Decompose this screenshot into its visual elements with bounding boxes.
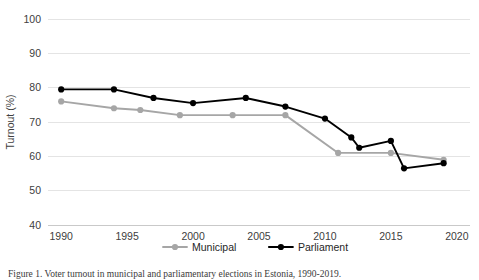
data-point [401,165,407,171]
data-point [356,145,362,151]
figure-caption: Figure 1. Voter turnout in municipal and… [8,268,476,280]
legend-marker [172,244,178,250]
data-point [190,100,196,106]
legend-marker [278,244,284,250]
y-tick-label: 90 [29,47,41,59]
data-point [58,98,64,104]
data-point [150,95,156,101]
x-tick-label: 1990 [50,230,74,242]
chart-legend: MunicipalParliament [163,241,348,253]
data-point [388,150,394,156]
data-point [111,105,117,111]
data-point [282,103,288,109]
y-axis-title: Turnout (%) [4,94,16,149]
data-point [282,112,288,118]
legend-label: Parliament [298,241,348,253]
data-point [335,150,341,156]
x-tick-label: 1995 [115,230,139,242]
legend-label: Municipal [192,241,236,253]
y-tick-label: 70 [29,116,41,128]
data-point [177,112,183,118]
data-point [243,95,249,101]
data-point [137,107,143,113]
y-tick-label: 100 [23,13,41,25]
data-point [441,160,447,166]
x-tick-label: 2015 [379,230,403,242]
y-tick-label: 40 [29,219,41,231]
data-point [322,115,328,121]
data-point [388,138,394,144]
series-parliament [58,86,447,171]
data-point [348,134,354,140]
data-point [111,86,117,92]
data-point [230,112,236,118]
y-tick-label: 60 [29,150,41,162]
series-municipal [58,98,447,163]
series-line [61,101,443,159]
y-tick-label: 80 [29,81,41,93]
x-tick-label: 2005 [247,230,271,242]
y-tick-label: 50 [29,184,41,196]
x-tick-label: 2020 [445,230,469,242]
data-point [58,86,64,92]
